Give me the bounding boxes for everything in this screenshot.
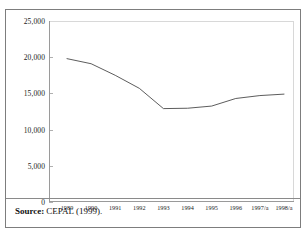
plot-area bbox=[49, 21, 294, 202]
y-axis-labels: 05,00010,00015,00020,00025,000 bbox=[6, 21, 45, 202]
x-tick-label: 1994 bbox=[181, 204, 194, 211]
y-tick-mark bbox=[49, 202, 53, 203]
footer-divider bbox=[6, 198, 300, 199]
y-tick-label: 25,000 bbox=[24, 17, 45, 26]
line-series-svg bbox=[49, 21, 294, 202]
line-series-path bbox=[67, 59, 284, 109]
figure-frame: 05,00010,00015,00020,00025,000 198919901… bbox=[5, 9, 301, 228]
x-tick-label: 1996 bbox=[229, 204, 242, 211]
y-tick-label: 20,000 bbox=[24, 53, 45, 62]
source-label: Source: bbox=[15, 206, 44, 216]
x-tick-label: 1995 bbox=[205, 204, 218, 211]
chart-area: 05,00010,00015,00020,00025,000 198919901… bbox=[6, 10, 300, 198]
source-text: CEPAL (1999). bbox=[46, 206, 102, 216]
clipped-title-strip: Chart bbox=[0, 0, 308, 7]
chart-title: Chart bbox=[143, 0, 166, 2]
x-tick-label: 1991 bbox=[109, 204, 122, 211]
y-tick-label: 10,000 bbox=[24, 125, 45, 134]
x-tick-label: 1992 bbox=[133, 204, 146, 211]
x-tick-label: 1997/a bbox=[251, 204, 268, 211]
source-note: Source:CEPAL (1999). bbox=[15, 206, 102, 216]
x-tick-label: 1993 bbox=[157, 204, 170, 211]
y-tick-label: 15,000 bbox=[24, 89, 45, 98]
x-tick-label: 1998/a bbox=[275, 204, 292, 211]
figure-container: Chart 05,00010,00015,00020,00025,000 198… bbox=[0, 0, 308, 236]
y-tick-label: 5,000 bbox=[28, 161, 45, 170]
